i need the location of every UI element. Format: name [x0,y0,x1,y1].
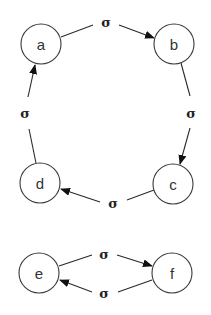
node-b: b [154,24,194,64]
node-d: d [20,163,60,203]
edge-f-e-head [60,280,92,292]
edge-b-c-head [180,128,190,164]
edge-a-b-head [119,25,154,38]
node-c: c [153,164,193,204]
edge-label-d-a: σ [20,106,30,121]
node-a-label: a [37,36,46,53]
edge-d-to-a: σ [20,65,36,163]
edge-f-e-tail [118,280,152,292]
node-c-label: c [169,176,177,193]
edge-label-a-b: σ [101,15,111,30]
edge-a-to-b: σ [61,15,154,39]
state-diagram: σ σ σ σ σ σ a b c [0,0,211,315]
node-e: e [19,253,59,293]
node-d-label: d [36,175,44,192]
node-b-label: b [170,36,178,53]
edge-e-f-tail [59,255,92,266]
node-a: a [21,24,61,64]
edge-label-b-c: σ [186,106,196,121]
edge-c-to-d: σ [61,189,154,211]
edge-f-to-e: σ [60,280,152,301]
edge-e-f-head [117,255,152,266]
edge-c-d-tail [127,190,154,200]
edge-b-to-c: σ [180,63,196,164]
edge-e-to-f: σ [59,247,152,267]
edge-d-a-tail [29,129,36,163]
edge-label-f-e: σ [99,286,109,301]
edge-c-d-head [61,189,100,202]
edge-d-a-head [28,65,35,97]
edge-label-e-f: σ [99,247,109,262]
edge-label-c-d: σ [108,196,118,211]
node-f: f [152,253,192,293]
node-e-label: e [35,265,43,282]
edge-a-b-tail [61,25,93,37]
edge-b-c-tail [181,63,190,96]
